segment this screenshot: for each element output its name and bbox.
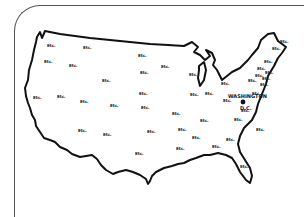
- region-label: Etc.: [223, 98, 232, 103]
- region-label: Etc.: [200, 118, 209, 123]
- region-label: Etc.: [212, 144, 221, 149]
- region-label: Etc.: [252, 91, 261, 96]
- region-label: Etc.: [141, 105, 150, 110]
- region-label: Etc.: [83, 45, 92, 50]
- region-label: Etc.: [172, 111, 181, 116]
- region-label: Etc.: [47, 43, 56, 48]
- region-label: Etc.: [280, 39, 289, 44]
- capital-name: WASHINGTON: [228, 93, 267, 99]
- region-label: Etc.: [135, 151, 144, 156]
- region-label: Etc.: [256, 127, 265, 132]
- region-label: Etc.: [176, 146, 185, 151]
- region-label: Etc.: [192, 135, 201, 140]
- map-canvas: WASHINGTON D.C. Etc.Etc.Etc.Etc.Etc.Etc.…: [0, 0, 304, 217]
- region-label: Etc.: [234, 117, 243, 122]
- region-label: Etc.: [78, 128, 87, 133]
- us-map: WASHINGTON D.C. Etc.Etc.Etc.Etc.Etc.Etc.…: [0, 0, 304, 217]
- region-label: Etc.: [140, 70, 149, 75]
- region-label: Etc.: [33, 95, 42, 100]
- region-label: Etc.: [102, 78, 111, 83]
- region-label: Etc.: [161, 64, 170, 69]
- region-label: Etc.: [262, 76, 271, 81]
- region-label: Etc.: [69, 63, 78, 68]
- region-label: Etc.: [264, 59, 273, 64]
- lake-michigan-outline: [198, 62, 206, 86]
- region-label: Etc.: [190, 92, 199, 97]
- region-label: Etc.: [80, 99, 89, 104]
- region-label: Etc.: [205, 91, 214, 96]
- region-labels: Etc.Etc.Etc.Etc.Etc.Etc.Etc.Etc.Etc.Etc.…: [33, 39, 289, 169]
- region-label: Etc.: [260, 82, 269, 87]
- region-label: Etc.: [248, 78, 257, 83]
- region-label: Etc.: [265, 70, 274, 75]
- region-label: Etc.: [178, 127, 187, 132]
- region-label: Etc.: [221, 81, 230, 86]
- capital-star-icon: [241, 100, 246, 105]
- region-label: Etc.: [57, 94, 66, 99]
- region-label: Etc.: [139, 91, 148, 96]
- region-label: Etc.: [44, 59, 53, 64]
- region-label: Etc.: [147, 129, 156, 134]
- region-label: Etc.: [226, 137, 235, 142]
- region-label: Etc.: [103, 132, 112, 137]
- region-label: Etc.: [272, 46, 281, 51]
- region-label: Etc.: [189, 72, 198, 77]
- region-label: Etc.: [138, 53, 147, 58]
- region-label: Etc.: [240, 164, 249, 169]
- region-label: Etc.: [110, 103, 119, 108]
- region-label: Etc.: [241, 108, 250, 113]
